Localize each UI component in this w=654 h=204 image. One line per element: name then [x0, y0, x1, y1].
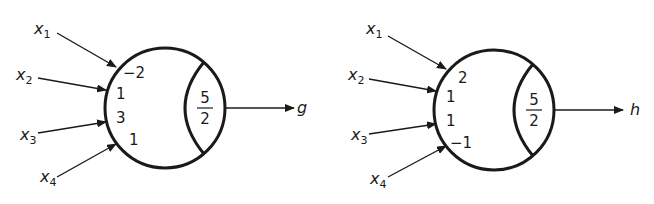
neuron-g: x1 x2 x3 x4 −2 1 3 1 5 2 g: [15, 19, 307, 189]
weight-x3: 3: [116, 109, 126, 127]
threshold-numerator: 5: [529, 91, 539, 109]
input-arrow-x4: [57, 144, 116, 177]
threshold-numerator: 5: [200, 89, 210, 107]
weight-x2: 1: [116, 85, 126, 103]
threshold-neurons-diagram: x1 x2 x3 x4 −2 1 3 1 5 2 g x1 x2 x3 x4: [0, 0, 654, 204]
threshold-denominator: 2: [529, 112, 539, 130]
input-label-x1: x1: [33, 19, 50, 41]
weight-x4: −1: [450, 134, 472, 152]
input-label-x4: x4: [39, 167, 56, 189]
input-arrow-x1: [57, 33, 116, 67]
input-label-x3: x3: [19, 125, 36, 147]
input-label-x1: x1: [365, 19, 382, 41]
input-label-x2: x2: [347, 65, 364, 87]
weight-x2: 1: [446, 88, 456, 106]
input-arrow-x3: [369, 124, 436, 134]
output-label: h: [630, 100, 640, 119]
input-label-x3: x3: [350, 125, 367, 147]
neuron-h: x1 x2 x3 x4 2 1 1 −1 5 2 h: [347, 19, 640, 191]
input-arrow-x2: [369, 79, 436, 91]
weight-x1: 2: [458, 69, 468, 87]
output-label: g: [297, 98, 307, 117]
weight-x3: 1: [446, 112, 456, 130]
input-label-x4: x4: [369, 169, 386, 191]
input-arrow-x3: [38, 122, 106, 133]
input-arrow-x1: [388, 36, 446, 69]
input-arrow-x4: [388, 146, 446, 177]
input-arrow-x2: [38, 78, 106, 90]
threshold-denominator: 2: [200, 110, 210, 128]
input-label-x2: x2: [15, 65, 32, 87]
weight-x4: 1: [129, 131, 139, 149]
weight-x1: −2: [123, 64, 145, 82]
